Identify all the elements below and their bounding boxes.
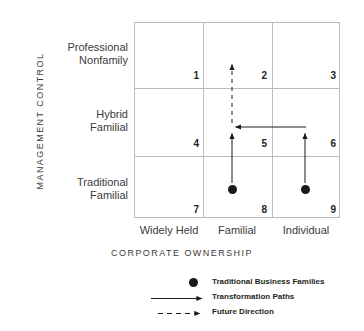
legend-symbol-filled-circle [140, 276, 208, 289]
legend-item-transformation-paths: Transformation Paths [140, 291, 364, 304]
cell-number-9: 9 [274, 204, 336, 215]
row-label-line1: Professional [67, 41, 128, 53]
row-label-line2: Familial [32, 121, 128, 134]
legend-item-future-direction: Future Direction [140, 306, 364, 319]
legend-symbol-solid-arrow [140, 291, 208, 304]
legend-label: Future Direction [212, 306, 274, 318]
grid-vertical-divider-2 [272, 23, 273, 217]
legend-item-traditional-business-families: Traditional Business Families [140, 276, 364, 289]
cell-number-8: 8 [205, 204, 267, 215]
row-label-traditional-familial: Traditional Familial [32, 176, 128, 202]
row-label-line2: Nonfamily [32, 54, 128, 67]
legend-label: Transformation Paths [212, 291, 294, 303]
col-label-individual: Individual [260, 224, 352, 236]
dashed-arrow-icon [140, 307, 208, 320]
grid-horizontal-divider-1 [135, 88, 339, 89]
cell-number-7: 7 [137, 204, 199, 215]
row-label-line1: Hybrid [96, 108, 128, 120]
filled-circle-icon [189, 278, 198, 287]
legend: Traditional Business Families Transforma… [140, 276, 364, 321]
row-label-line2: Familial [32, 189, 128, 202]
cell-number-4: 4 [137, 138, 199, 149]
marker-traditional-business-families-individual [301, 185, 310, 194]
matrix-diagram: MANAGEMENT CONTROL Professional Nonfamil… [0, 0, 364, 331]
solid-arrow-icon [140, 292, 208, 305]
row-label-hybrid-familial: Hybrid Familial [32, 108, 128, 134]
legend-symbol-dashed-arrow [140, 306, 208, 319]
cell-number-3: 3 [274, 70, 336, 81]
grid-horizontal-divider-2 [135, 156, 339, 157]
grid-vertical-divider-1 [203, 23, 204, 217]
cell-number-5: 5 [205, 138, 267, 149]
x-axis-title: CORPORATE OWNERSHIP [0, 248, 364, 258]
matrix-grid: 1 2 3 4 5 6 7 8 9 [134, 22, 340, 218]
marker-traditional-business-families-familial [228, 185, 237, 194]
row-label-professional-nonfamily: Professional Nonfamily [32, 41, 128, 67]
row-label-line1: Traditional [77, 176, 128, 188]
cell-number-6: 6 [274, 138, 336, 149]
legend-label: Traditional Business Families [212, 276, 324, 288]
cell-number-1: 1 [137, 70, 199, 81]
cell-number-2: 2 [205, 70, 267, 81]
